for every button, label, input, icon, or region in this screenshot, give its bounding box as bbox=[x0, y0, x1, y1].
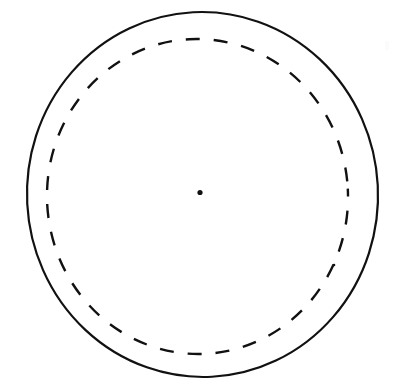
dash-gap-mask bbox=[341, 252, 344, 276]
dash-fragment-mark bbox=[333, 264, 336, 267]
figure-container: Concentric circles with center point bbox=[0, 0, 393, 389]
center-point-dot bbox=[197, 190, 202, 195]
scan-artifact bbox=[385, 41, 389, 50]
canvas-background bbox=[0, 0, 393, 389]
concentric-circles-diagram bbox=[0, 0, 393, 389]
